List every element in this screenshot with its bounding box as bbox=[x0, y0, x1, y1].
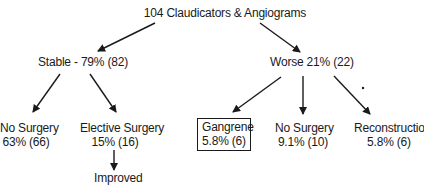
edge-root-to-worse bbox=[260, 23, 300, 52]
reconstruction-line1: Reconstruction bbox=[354, 121, 424, 135]
edge-stable-to-no-surgery bbox=[33, 74, 60, 112]
node-elective-surgery: Elective Surgery 15% (16) bbox=[80, 121, 150, 149]
worse-no-surgery-line2: 9.1% (10) bbox=[275, 135, 331, 149]
stable-label: Stable - 79% (82) bbox=[38, 55, 118, 69]
improved-label: Improved bbox=[94, 171, 134, 185]
edge-worse-to-reconstruction bbox=[334, 76, 370, 114]
node-stable: Stable - 79% (82) bbox=[38, 55, 118, 69]
node-worse: Worse 21% (22) bbox=[270, 55, 350, 69]
elective-surgery-line1: Elective Surgery bbox=[80, 121, 150, 135]
node-root: 104 Claudicators & Angiograms bbox=[140, 6, 310, 20]
node-stable-no-surgery: No Surgery 63% (66) bbox=[0, 121, 52, 149]
node-improved: Improved bbox=[94, 171, 134, 185]
stable-no-surgery-line1: No Surgery bbox=[0, 121, 52, 135]
root-label: 104 Claudicators & Angiograms bbox=[140, 6, 310, 20]
stray-dot bbox=[362, 87, 364, 89]
node-worse-no-surgery: No Surgery 9.1% (10) bbox=[275, 121, 331, 149]
stable-no-surgery-line2: 63% (66) bbox=[0, 135, 52, 149]
edge-stable-to-elective bbox=[90, 74, 116, 112]
edge-worse-to-gangrene bbox=[233, 77, 281, 112]
edge-root-to-stable bbox=[98, 23, 155, 51]
node-reconstruction: Reconstruction 5.8% (6) bbox=[354, 121, 424, 149]
worse-label: Worse 21% (22) bbox=[270, 55, 350, 69]
worse-no-surgery-line1: No Surgery bbox=[275, 121, 331, 135]
elective-surgery-line2: 15% (16) bbox=[80, 135, 150, 149]
reconstruction-line2: 5.8% (6) bbox=[354, 135, 424, 149]
node-gangrene: Gangrene 5.8% (6) bbox=[197, 118, 251, 151]
gangrene-line2: 5.8% (6) bbox=[202, 134, 246, 148]
edges-layer bbox=[0, 0, 424, 185]
gangrene-line1: Gangrene bbox=[202, 120, 246, 134]
